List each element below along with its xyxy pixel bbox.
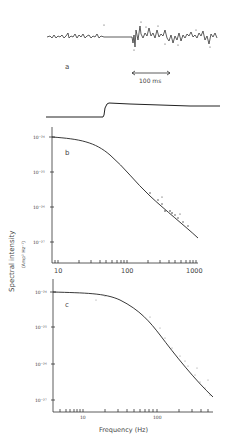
svg-text:10: 10 <box>54 267 62 275</box>
x-axis-label: Frequency (Hz) <box>99 426 148 434</box>
panel-b-data-points <box>149 192 188 226</box>
panel-c-fit-curve <box>53 292 213 397</box>
panel-c-x-tick-labels: 10 100 <box>80 415 162 420</box>
figure-canvas: a 100 ms 10⁻²⁴ 10⁻²⁵ 10⁻²⁶ 10⁻²⁷ 10 100 <box>0 0 229 443</box>
svg-text:10⁻²⁵: 10⁻²⁵ <box>33 170 45 175</box>
svg-text:10⁻²⁶: 10⁻²⁶ <box>33 205 45 210</box>
panel-c-axes <box>50 279 213 412</box>
y-axis-label: Spectral intensity <box>8 231 16 292</box>
y-axis-units: (Amp² Hz⁻¹) <box>21 241 26 268</box>
panel-b-fit-curve <box>52 137 198 238</box>
scale-bar-label: 100 ms <box>139 77 161 84</box>
panel-b-label: b <box>65 149 70 157</box>
svg-text:10: 10 <box>80 415 86 420</box>
scale-bar <box>132 71 170 75</box>
panel-a-trace <box>47 26 217 47</box>
svg-text:10⁻²⁷: 10⁻²⁷ <box>33 240 45 245</box>
panel-b-x-tick-labels: 10 100 1000 <box>54 267 203 275</box>
svg-text:10⁻²⁴: 10⁻²⁴ <box>33 135 45 140</box>
svg-text:10⁻²⁴: 10⁻²⁴ <box>35 290 47 295</box>
svg-text:1000: 1000 <box>186 267 203 275</box>
svg-text:10⁻²⁵: 10⁻²⁵ <box>35 325 47 330</box>
panel-a-label: a <box>65 63 69 71</box>
panel-c-label: c <box>65 301 69 309</box>
svg-text:10⁻²⁷: 10⁻²⁷ <box>35 398 47 403</box>
svg-text:100: 100 <box>153 415 162 420</box>
panel-b-axes <box>49 127 198 263</box>
panel-c-y-tick-labels: 10⁻²⁴ 10⁻²⁵ 10⁻²⁶ 10⁻²⁷ <box>35 290 47 403</box>
panel-c-data-points <box>96 296 211 396</box>
svg-text:100: 100 <box>121 267 133 275</box>
step-trace <box>46 103 220 117</box>
svg-text:10⁻²⁶: 10⁻²⁶ <box>35 362 47 367</box>
panel-b-y-tick-labels: 10⁻²⁴ 10⁻²⁵ 10⁻²⁶ 10⁻²⁷ <box>33 135 45 245</box>
